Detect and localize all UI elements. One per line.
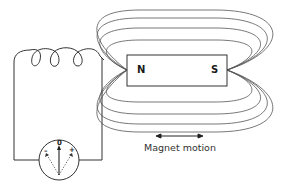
induction-diagram <box>0 0 299 187</box>
coil <box>30 48 104 67</box>
galvanometer-positive-label: + <box>69 147 75 154</box>
south-pole-label: S <box>211 64 218 75</box>
magnet-motion-arrow <box>156 134 203 138</box>
galvanometer-zero-label: 0 <box>57 140 62 147</box>
galvanometer-negative-label: – <box>44 148 48 155</box>
magnet-motion-caption: Magnet motion <box>144 142 216 153</box>
north-pole-label: N <box>137 64 145 75</box>
